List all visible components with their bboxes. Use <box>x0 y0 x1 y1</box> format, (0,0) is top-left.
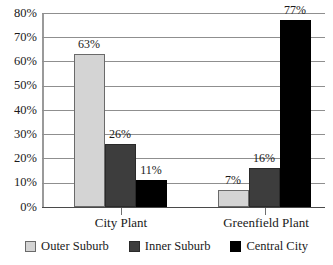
x-axis-label-city-plant: City Plant <box>71 216 171 230</box>
bar-value-city-plant-central-city: 11% <box>126 164 176 176</box>
legend-label-central-city: Central City <box>246 240 307 253</box>
bar-greenfield-plant-central-city <box>280 20 311 207</box>
y-tick-label-30: 30% <box>0 128 37 140</box>
legend-item-inner-suburb: Inner Suburb <box>129 240 211 253</box>
y-tick-label-40: 40% <box>0 104 37 116</box>
legend-label-inner-suburb: Inner Suburb <box>145 240 211 253</box>
legend-swatch-icon-outer-suburb <box>25 241 36 252</box>
bar-greenfield-plant-outer-suburb <box>218 190 249 207</box>
legend-swatch-icon-inner-suburb <box>129 241 140 252</box>
x-axis-label-greenfield-plant: Greenfield Plant <box>210 216 322 230</box>
bar-value-greenfield-plant-central-city: 77% <box>270 4 320 16</box>
legend-item-outer-suburb: Outer Suburb <box>25 240 109 253</box>
grouped-bar-chart: 80% 70% 60% 50% 40% 30% 20% 10% 0% 63% 2… <box>0 0 333 265</box>
x-tick-city-plant <box>121 208 122 215</box>
chart-legend: Outer Suburb Inner Suburb Central City <box>0 240 333 253</box>
bar-city-plant-central-city <box>136 180 167 207</box>
legend-label-outer-suburb: Outer Suburb <box>41 240 109 253</box>
y-tick-label-50: 50% <box>0 79 37 91</box>
plot-area: 63% 26% 11% 7% 16% 77% <box>42 13 325 207</box>
bar-value-greenfield-plant-inner-suburb: 16% <box>239 152 289 164</box>
y-tick-label-80: 80% <box>0 7 37 19</box>
bar-value-city-plant-inner-suburb: 26% <box>95 128 145 140</box>
x-tick-greenfield-plant <box>265 208 266 215</box>
legend-swatch-icon-central-city <box>230 241 241 252</box>
y-tick-label-0: 0% <box>0 201 37 213</box>
x-axis-baseline <box>42 207 325 208</box>
y-tick-label-70: 70% <box>0 31 37 43</box>
bar-value-greenfield-plant-outer-suburb: 7% <box>208 174 258 186</box>
y-tick-label-20: 20% <box>0 152 37 164</box>
y-tick-label-60: 60% <box>0 55 37 67</box>
legend-item-central-city: Central City <box>230 240 307 253</box>
y-tick-label-10: 10% <box>0 176 37 188</box>
bar-value-city-plant-outer-suburb: 63% <box>64 38 114 50</box>
